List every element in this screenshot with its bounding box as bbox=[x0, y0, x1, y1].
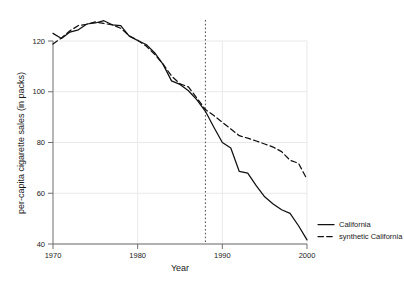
x-tick-label: 2000 bbox=[299, 251, 316, 260]
series-line-synthetic-california bbox=[53, 22, 307, 179]
y-axis-ticks: 406080100120 bbox=[32, 37, 53, 249]
chart-figure: 406080100120 1970198019902000 Year per-c… bbox=[0, 0, 404, 289]
legend: California synthetic California bbox=[318, 220, 403, 241]
x-tick-label: 1970 bbox=[45, 251, 62, 260]
y-tick-label: 120 bbox=[32, 37, 45, 46]
x-axis-ticks: 1970198019902000 bbox=[45, 244, 316, 260]
line-chart-svg: 406080100120 1970198019902000 Year per-c… bbox=[0, 0, 404, 289]
y-tick-label: 40 bbox=[37, 240, 45, 249]
x-tick-label: 1980 bbox=[129, 251, 146, 260]
y-tick-label: 100 bbox=[32, 87, 45, 96]
legend-label-california: California bbox=[339, 220, 372, 229]
y-tick-label: 60 bbox=[37, 189, 45, 198]
x-axis-title: Year bbox=[171, 263, 189, 273]
y-axis-title: per-capita cigarette sales (in packs) bbox=[16, 72, 26, 214]
series-line-california bbox=[53, 21, 307, 240]
legend-label-synthetic-california: synthetic California bbox=[339, 232, 403, 241]
y-tick-label: 80 bbox=[37, 138, 45, 147]
x-tick-label: 1990 bbox=[214, 251, 231, 260]
gridlines bbox=[53, 41, 307, 244]
